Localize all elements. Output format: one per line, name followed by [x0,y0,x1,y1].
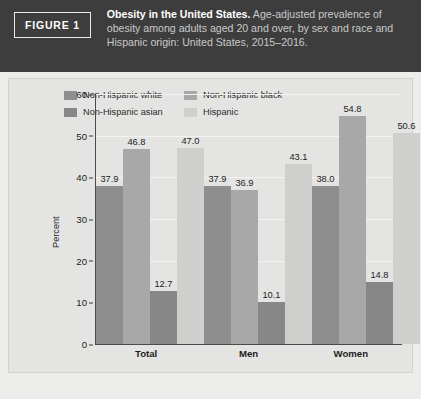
y-axis-tick-mark [89,177,93,178]
y-axis-tick-mark [89,344,93,345]
y-axis-ticks: 0102030405060 [59,94,93,344]
y-axis-tick-mark [89,136,93,137]
x-axis-label: Total [95,348,197,359]
bar-fill [312,186,339,344]
bar: 50.6 [393,94,420,344]
bar: 37.9 [96,94,123,344]
x-axis-labels: TotalMenWomen [95,348,402,359]
y-axis-tick-mark [89,94,93,95]
y-axis-tick-mark [89,261,93,262]
bar: 43.1 [285,94,312,344]
y-axis-tick-label: 40 [57,172,87,183]
plot-area: 37.946.812.747.037.936.910.143.138.054.8… [95,94,402,345]
y-axis-tick-label: 20 [57,255,87,266]
bar: 46.8 [123,94,150,344]
bar: 37.9 [204,94,231,344]
figure-header: FIGURE 1 Obesity in the United States. A… [0,0,421,72]
bar-fill [150,291,177,344]
bar-fill [366,282,393,344]
figure-container: FIGURE 1 Obesity in the United States. A… [0,0,421,399]
y-axis-tick-label: 30 [57,214,87,225]
bar-value-label: 43.1 [289,152,307,162]
bar-fill [204,186,231,344]
y-axis-tick-label: 0 [57,339,87,350]
y-axis-tick-label: 50 [57,130,87,141]
bar: 10.1 [258,94,285,344]
chart-panel: Non-Hispanic whiteNon-Hispanic blackNon-… [8,78,413,373]
bar-value-label: 50.6 [397,121,415,131]
bar-fill [258,302,285,344]
bar-fill [96,186,123,344]
bar-fill [231,190,258,344]
y-axis-tick-mark [89,302,93,303]
figure-caption-title: Obesity in the United States. [107,8,251,20]
bar-group: 37.936.910.143.1 [204,94,312,344]
bar-value-label: 46.8 [127,137,145,147]
bar: 14.8 [366,94,393,344]
bar-group: 38.054.814.850.6 [312,94,420,344]
figure-number-badge: FIGURE 1 [14,12,91,38]
bar-value-label: 10.1 [262,290,280,300]
bar-group: 37.946.812.747.0 [96,94,204,344]
bar-value-label: 12.7 [154,279,172,289]
bar-fill [393,133,420,344]
bar-groups: 37.946.812.747.037.936.910.143.138.054.8… [96,94,402,344]
bar-fill [285,164,312,344]
plot-wrapper: Percent 0102030405060 37.946.812.747.037… [53,80,408,371]
bar-value-label: 47.0 [181,136,199,146]
bar-value-label: 38.0 [316,174,334,184]
x-axis-label: Men [197,348,299,359]
bar-value-label: 37.9 [208,174,226,184]
bar: 38.0 [312,94,339,344]
y-axis-tick-label: 10 [57,297,87,308]
y-axis-tick-label: 60 [57,89,87,100]
y-axis-tick-mark [89,219,93,220]
bar-fill [177,148,204,344]
bar: 54.8 [339,94,366,344]
bar: 12.7 [150,94,177,344]
x-axis-label: Women [300,348,402,359]
bar-value-label: 14.8 [370,270,388,280]
bar: 47.0 [177,94,204,344]
bar-fill [123,149,150,344]
bar-value-label: 36.9 [235,178,253,188]
bar: 36.9 [231,94,258,344]
bar-value-label: 37.9 [100,174,118,184]
bar-fill [339,116,366,344]
figure-caption: Obesity in the United States. Age-adjust… [107,7,402,50]
bar-value-label: 54.8 [343,104,361,114]
